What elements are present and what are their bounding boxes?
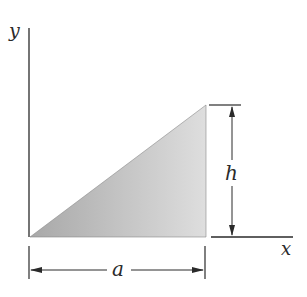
base-label: a <box>112 257 124 281</box>
arrow-down-icon <box>229 225 235 236</box>
triangle-figure: y x h a <box>0 0 307 297</box>
arrow-right-icon <box>192 267 204 273</box>
x-axis-label: x <box>281 238 291 259</box>
arrow-left-icon <box>30 267 42 273</box>
arrow-up-icon <box>229 106 235 117</box>
y-axis-label: y <box>8 19 20 41</box>
shaded-triangle <box>30 105 206 237</box>
height-label: h <box>225 161 238 185</box>
